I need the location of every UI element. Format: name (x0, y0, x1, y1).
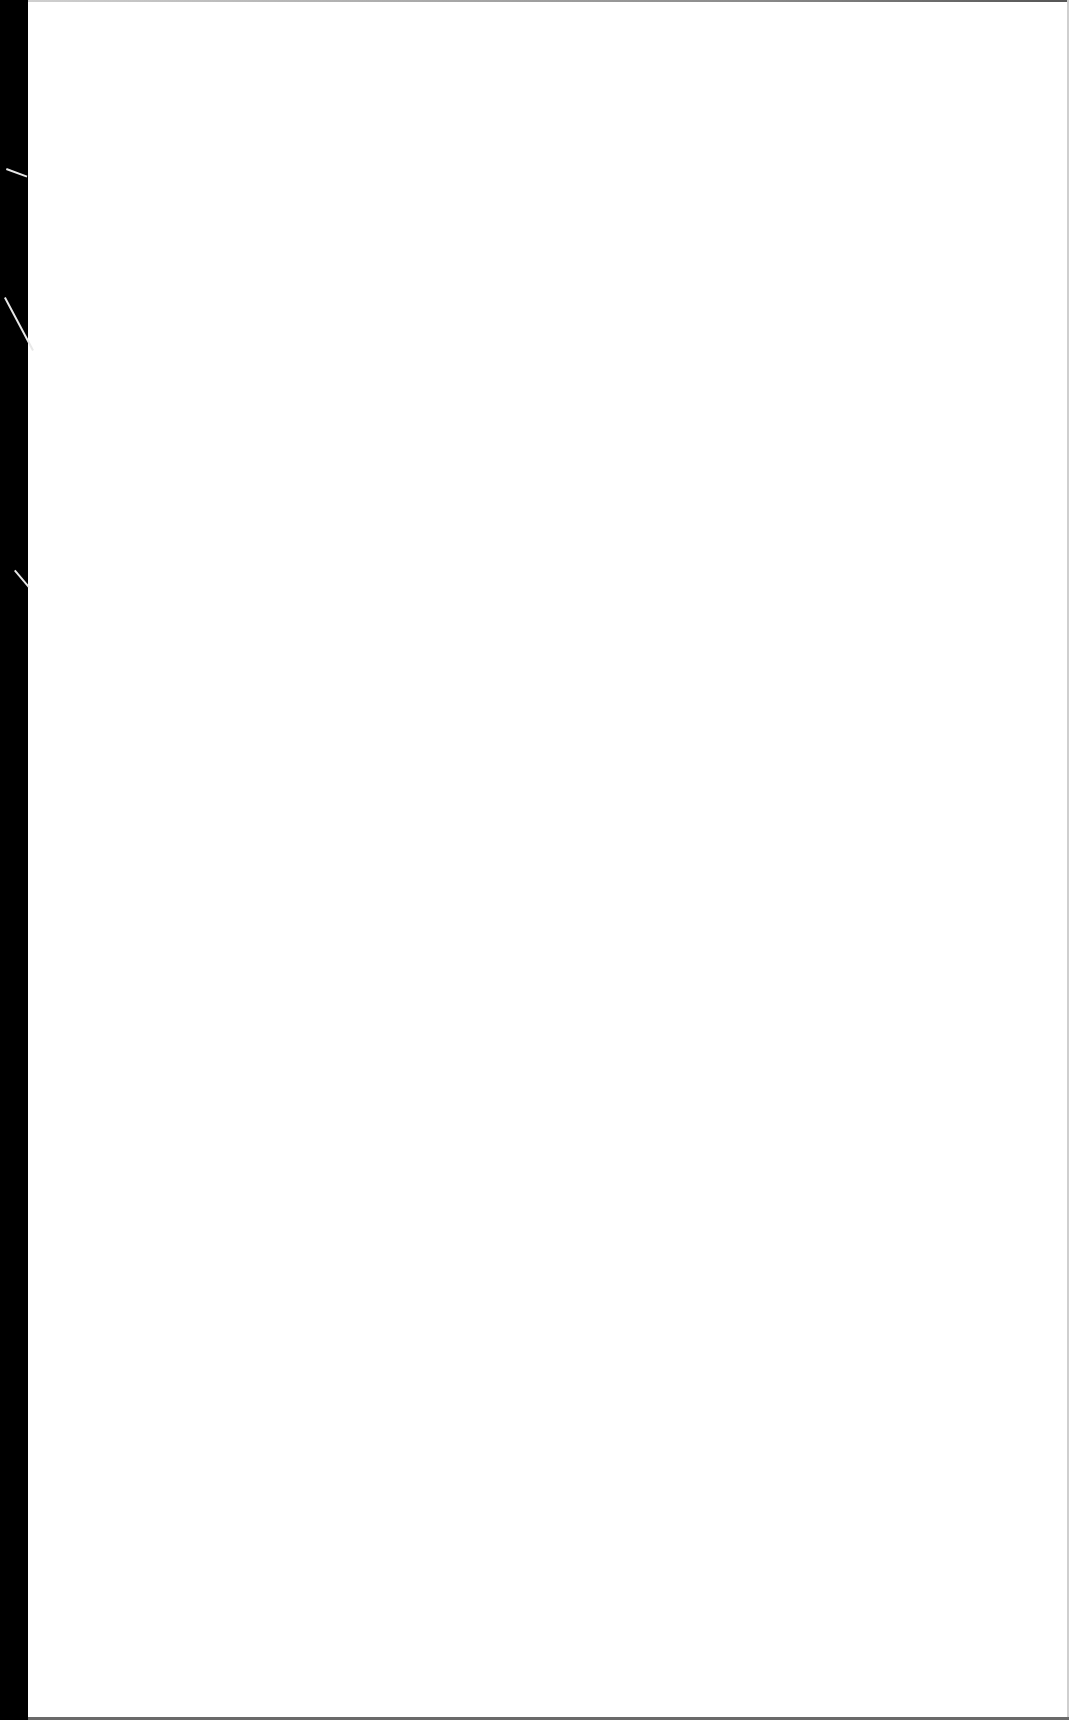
blank-page (28, 1, 1067, 1717)
scanner-margin (0, 0, 26, 1720)
page-top-edge (28, 0, 1069, 2)
